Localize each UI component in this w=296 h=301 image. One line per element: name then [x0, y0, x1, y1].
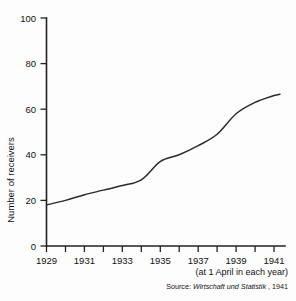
x-tick-label-1935: 1935 [150, 255, 171, 266]
source-prefix: Source: [166, 282, 191, 291]
x-tick-label-1931: 1931 [74, 255, 95, 266]
y-tick-label-80: 80 [25, 58, 36, 69]
x-tick-label-1929: 1929 [36, 255, 57, 266]
chart-figure: 0 20 40 60 80 100 1929 1931 1 [0, 0, 296, 301]
y-tick-label-40: 40 [25, 149, 36, 160]
x-tick-label-1939: 1939 [226, 255, 247, 266]
y-tick-label-100: 100 [20, 13, 36, 24]
y-tick-label-20: 20 [25, 195, 36, 206]
y-tick-label-0: 0 [31, 241, 36, 252]
period-note: (at 1 April in each year) [195, 267, 288, 277]
y-tick-label-60: 60 [25, 104, 36, 115]
source-note: Source: Wirtschaft und Statistik , 1941 [166, 282, 288, 291]
x-tick-label-1937: 1937 [188, 255, 209, 266]
source-year: , 1941 [268, 282, 288, 291]
line-chart: 0 20 40 60 80 100 1929 1931 1 [0, 0, 296, 301]
x-tick-label-1933: 1933 [112, 255, 133, 266]
y-axis-title: Number of receivers [5, 137, 16, 223]
x-tick-label-1941: 1941 [263, 255, 284, 266]
source-publication: Wirtschaft und Statistik [193, 282, 266, 291]
